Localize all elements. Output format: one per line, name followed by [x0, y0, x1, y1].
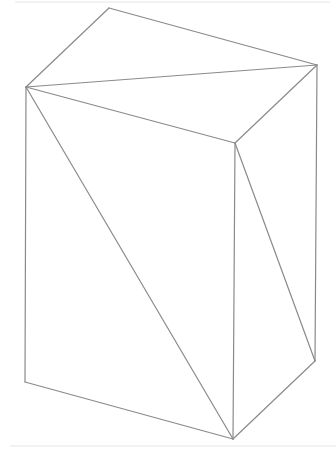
box-diagram — [0, 0, 336, 470]
edge-top-back-to-left-top — [26, 8, 109, 87]
edge-front-top-to-right-top — [235, 65, 317, 143]
edge-front-bottom-to-right-bottom — [233, 361, 315, 439]
edge-left-top-to-front-bottom — [26, 87, 233, 439]
edge-right-top-to-right-bottom — [315, 65, 317, 361]
edge-left-bottom-to-front-bottom — [25, 382, 233, 439]
edge-top-back-to-right-top — [109, 8, 317, 65]
edge-left-top-to-front-top — [26, 87, 235, 143]
edge-front-top-to-front-bottom — [233, 143, 235, 439]
edge-left-top-to-right-top — [26, 65, 317, 87]
box-edges — [25, 8, 317, 439]
edge-front-top-to-right-bottom — [235, 143, 315, 361]
edge-left-top-to-left-bottom — [25, 87, 26, 382]
